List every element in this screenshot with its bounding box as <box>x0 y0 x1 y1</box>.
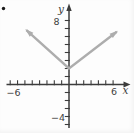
y-axis-arrow-icon <box>66 4 71 12</box>
list-bullet-icon <box>2 7 5 10</box>
y-tick-label-neg4: −4 <box>51 112 65 123</box>
graph-canvas: y 8 −4 −6 6 x <box>0 0 134 133</box>
v-shaped-graph <box>25 29 118 68</box>
x-axis-label: x <box>123 84 129 96</box>
y-axis-label: y <box>57 3 65 15</box>
x-tick-label-6: 6 <box>111 86 117 97</box>
graph-figure: y 8 −4 −6 6 x <box>0 0 134 133</box>
y-tick-label-8: 8 <box>53 16 59 27</box>
x-tick-label-neg6: −6 <box>6 87 20 98</box>
